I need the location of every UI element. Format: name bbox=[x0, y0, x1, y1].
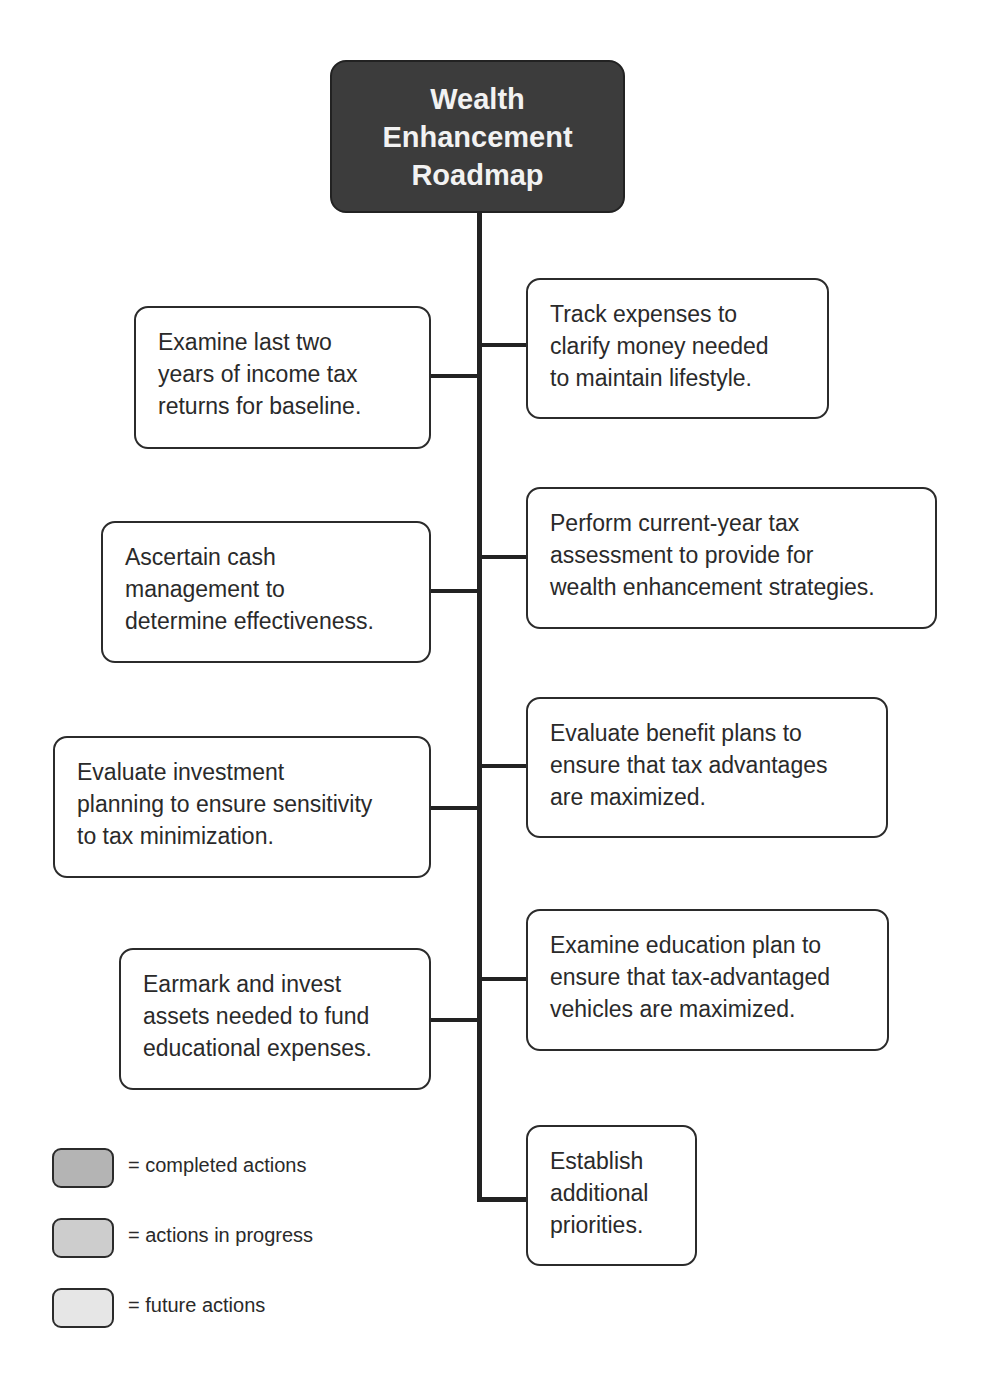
roadmap-title: Wealth Enhancement Roadmap bbox=[330, 60, 625, 213]
connector-left-4 bbox=[430, 1018, 480, 1022]
connector-left-3 bbox=[430, 806, 480, 810]
step-box-benefit-plans: Evaluate benefit plans to ensure that ta… bbox=[526, 697, 888, 838]
step-box-education-assets: Earmark and invest assets needed to fund… bbox=[119, 948, 431, 1090]
connector-right-4 bbox=[480, 977, 526, 981]
connector-right-3 bbox=[480, 764, 526, 768]
legend-label: = actions in progress bbox=[128, 1224, 313, 1247]
step-box-cash-management: Ascertain cash management to determine e… bbox=[101, 521, 431, 663]
legend-label: = completed actions bbox=[128, 1154, 306, 1177]
future-swatch bbox=[52, 1288, 114, 1328]
step-box-education-plan: Examine education plan to ensure that ta… bbox=[526, 909, 889, 1051]
step-box-tax-assessment: Perform current-year tax assessment to p… bbox=[526, 487, 937, 629]
completed-swatch bbox=[52, 1148, 114, 1188]
connector-left-1 bbox=[430, 374, 480, 378]
connector-left-2 bbox=[430, 589, 480, 593]
connector-right-1 bbox=[480, 343, 526, 347]
step-box-track-expenses: Track expenses to clarify money needed t… bbox=[526, 278, 829, 419]
connector-right-2 bbox=[480, 555, 526, 559]
step-box-investment-planning: Evaluate investment planning to ensure s… bbox=[53, 736, 431, 878]
step-box-additional-priorities: Establish additional priorities. bbox=[526, 1125, 697, 1266]
in-progress-swatch bbox=[52, 1218, 114, 1258]
spine-connector bbox=[477, 212, 482, 1201]
step-box-examine-tax-returns: Examine last two years of income tax ret… bbox=[134, 306, 431, 449]
connector-right-5 bbox=[477, 1197, 526, 1202]
legend-label: = future actions bbox=[128, 1294, 265, 1317]
